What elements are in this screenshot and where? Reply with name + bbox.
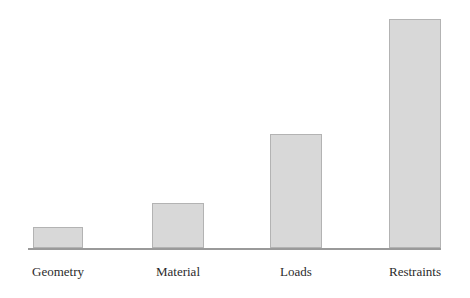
x-axis-line [28,248,441,250]
plot-area: Geometry Material Loads Restraints [0,0,470,298]
bar-chart: Geometry Material Loads Restraints [0,0,470,298]
bar-restraints [389,19,441,248]
x-tick-label-material: Material [118,264,238,280]
bar-material [152,203,204,248]
x-tick-label-loads: Loads [236,264,356,280]
bar-loads [270,134,322,248]
x-tick-label-geometry: Geometry [0,264,118,280]
bar-geometry [33,227,83,248]
x-tick-label-restraints: Restraints [355,264,470,280]
